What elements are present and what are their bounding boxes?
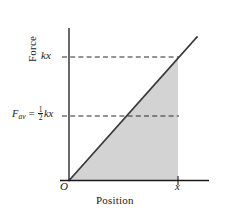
fav-kx-term: kx (44, 109, 53, 120)
fav-tick-label: Fav = 1 2 kx (12, 106, 53, 122)
origin-label: O (60, 180, 68, 192)
fraction-numerator: 1 (38, 106, 44, 114)
fraction-denominator: 2 (38, 113, 44, 122)
x-tick-label: x (175, 180, 180, 192)
force-position-chart: Force Position kx O x Fav = 1 2 kx (0, 0, 225, 214)
fav-subscript: av (18, 113, 25, 121)
y-tick-label-kx: kx (41, 49, 51, 61)
y-axis-label: Force (26, 36, 38, 62)
fav-equals-sign: = (29, 109, 35, 120)
x-axis-label: Position (96, 194, 134, 206)
one-half-fraction: 1 2 (38, 106, 44, 122)
